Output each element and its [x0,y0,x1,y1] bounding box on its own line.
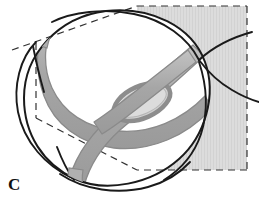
panel-label: C [8,176,20,193]
topology-diagram-svg [0,0,259,206]
figure-panel-c: C [0,0,259,206]
